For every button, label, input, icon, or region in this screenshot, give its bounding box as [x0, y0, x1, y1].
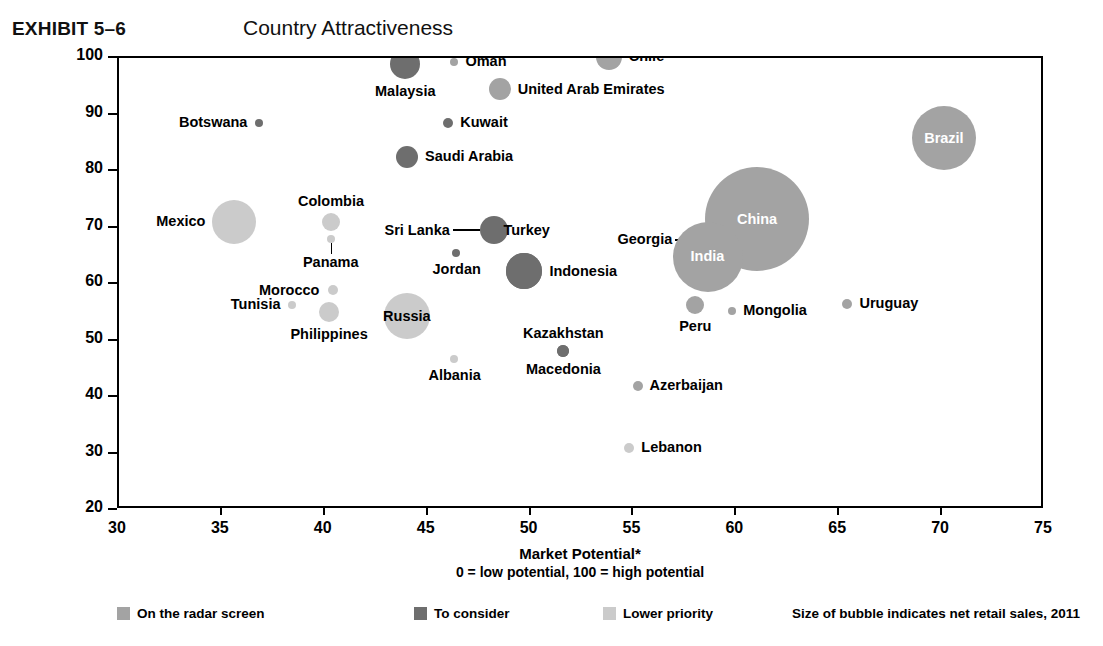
- bubble-panama[interactable]: [327, 235, 335, 243]
- bubble-label-lebanon: Lebanon: [641, 439, 701, 455]
- legend-item-on-the-radar-screen[interactable]: On the radar screen: [117, 606, 265, 621]
- y-axis-title-line2: 0 = high risk, 100 = low risk: [5, 0, 18, 56]
- bubble-label-saudi-arabia: Saudi Arabia: [425, 148, 513, 164]
- x-axis-title-line1: Market Potential*: [117, 545, 1043, 562]
- y-tick-label: 70: [57, 216, 103, 234]
- legend-label: Lower priority: [623, 606, 713, 621]
- legend-note: Size of bubble indicates net retail sale…: [792, 606, 1080, 621]
- x-tick: [426, 506, 428, 515]
- bubble-label-china: China: [737, 211, 777, 227]
- bubble-label-jordan: Jordan: [432, 261, 480, 277]
- y-tick: [108, 395, 117, 397]
- x-tick-label: 45: [404, 519, 448, 537]
- bubble-label-philippines: Philippines: [290, 326, 367, 342]
- leader-line: [453, 229, 480, 231]
- bubble-mexico[interactable]: [212, 200, 256, 244]
- bubble-united-arab-emirates[interactable]: [489, 78, 511, 100]
- legend-swatch: [117, 607, 130, 620]
- x-tick: [220, 506, 222, 515]
- bubble-label-panama: Panama: [303, 254, 359, 270]
- bubble-label-india: India: [691, 248, 725, 264]
- x-axis: 30354045505560657075: [117, 508, 1043, 542]
- bubble-tunisia[interactable]: [288, 301, 296, 309]
- x-tick: [734, 506, 736, 515]
- y-tick: [108, 282, 117, 284]
- bubble-lebanon[interactable]: [624, 443, 634, 453]
- bubble-azerbaijan[interactable]: [633, 381, 643, 391]
- plot-area: MalaysiaOmanChileUnited Arab EmiratesBot…: [117, 56, 1043, 508]
- legend-item-lower-priority[interactable]: Lower priority: [603, 606, 713, 621]
- bubble-oman[interactable]: [450, 58, 458, 66]
- y-tick-label: 20: [57, 498, 103, 516]
- bubble-indonesia[interactable]: [506, 253, 542, 289]
- bubble-label-albania: Albania: [428, 367, 480, 383]
- y-tick: [108, 452, 117, 454]
- chart-title: Country Attractiveness: [243, 16, 453, 40]
- x-axis-title-line2: 0 = low potential, 100 = high potential: [117, 564, 1043, 580]
- bubble-jordan[interactable]: [452, 249, 460, 257]
- bubble-label-turkey: Turkey: [503, 222, 549, 238]
- legend-item-to-consider[interactable]: To consider: [414, 606, 510, 621]
- x-tick-label: 70: [918, 519, 962, 537]
- bubble-label-chile: Chile: [629, 58, 664, 64]
- bubble-label-uruguay: Uruguay: [859, 295, 918, 311]
- y-tick: [108, 56, 117, 58]
- bubble-macedonia[interactable]: [557, 345, 569, 357]
- bubble-label-kazakhstan: Kazakhstan: [523, 325, 604, 341]
- bubble-layer: MalaysiaOmanChileUnited Arab EmiratesBot…: [119, 58, 1041, 506]
- bubble-uruguay[interactable]: [842, 299, 852, 309]
- leader-line: [331, 243, 332, 254]
- bubble-label-mexico: Mexico: [156, 213, 205, 229]
- exhibit-figure: EXHIBIT 5–6 Country Attractiveness Count…: [0, 0, 1103, 646]
- bubble-morocco[interactable]: [328, 285, 338, 295]
- x-tick-label: 55: [609, 519, 653, 537]
- y-tick: [108, 226, 117, 228]
- bubble-label-tunisia: Tunisia: [231, 296, 281, 312]
- figure-header: EXHIBIT 5–6 Country Attractiveness: [0, 10, 1103, 44]
- bubble-label-kuwait: Kuwait: [460, 114, 508, 130]
- y-tick-label: 90: [57, 103, 103, 121]
- bubble-label-peru: Peru: [679, 318, 711, 334]
- bubble-label-oman: Oman: [465, 58, 506, 69]
- x-tick: [940, 506, 942, 515]
- bubble-label-mongolia: Mongolia: [743, 302, 807, 318]
- x-tick-label: 75: [1021, 519, 1065, 537]
- y-axis-title: Country Risk (economic and political) 0 …: [0, 0, 18, 56]
- bubble-colombia[interactable]: [322, 213, 340, 231]
- y-tick: [108, 339, 117, 341]
- legend-swatch: [603, 607, 616, 620]
- y-tick-label: 80: [57, 159, 103, 177]
- bubble-albania[interactable]: [450, 355, 458, 363]
- bubble-peru[interactable]: [686, 296, 704, 314]
- y-tick-label: 50: [57, 329, 103, 347]
- bubble-botswana[interactable]: [255, 119, 263, 127]
- bubble-chile[interactable]: [596, 58, 622, 70]
- bubble-mongolia[interactable]: [728, 307, 736, 315]
- bubble-malaysia[interactable]: [390, 58, 420, 79]
- legend-label: To consider: [434, 606, 510, 621]
- bubble-saudi-arabia[interactable]: [396, 146, 418, 168]
- bubble-label-united-arab-emirates: United Arab Emirates: [518, 81, 665, 97]
- x-tick: [323, 506, 325, 515]
- y-tick-label: 30: [57, 442, 103, 460]
- y-tick: [108, 113, 117, 115]
- x-tick-label: 50: [507, 519, 551, 537]
- x-tick: [529, 506, 531, 515]
- y-tick: [108, 169, 117, 171]
- bubble-label-sri-lanka: Sri Lanka: [385, 222, 450, 238]
- x-tick: [631, 506, 633, 515]
- bubble-label-georgia: Georgia: [617, 231, 672, 247]
- bubble-kuwait[interactable]: [443, 118, 453, 128]
- x-tick-label: 40: [301, 519, 345, 537]
- bubble-label-russia: Russia: [383, 308, 431, 324]
- legend-label: On the radar screen: [137, 606, 265, 621]
- x-axis-title: Market Potential* 0 = low potential, 100…: [117, 545, 1043, 580]
- y-tick-label: 100: [57, 46, 103, 64]
- x-tick-label: 65: [815, 519, 859, 537]
- legend: On the radar screenTo considerLower prio…: [117, 606, 1103, 632]
- x-tick-label: 60: [712, 519, 756, 537]
- bubble-label-indonesia: Indonesia: [549, 263, 617, 279]
- bubble-label-colombia: Colombia: [298, 193, 364, 209]
- bubble-label-azerbaijan: Azerbaijan: [650, 377, 723, 393]
- bubble-philippines[interactable]: [319, 302, 339, 322]
